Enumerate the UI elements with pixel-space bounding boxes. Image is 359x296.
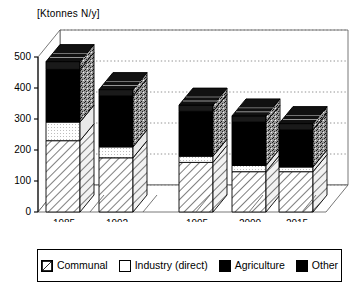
plot-area: 0 100 200 300 400 500 <box>0 22 359 222</box>
y-tick-label: 200 <box>14 144 31 155</box>
y-axis <box>34 57 38 212</box>
legend-item-communal[interactable]: Communal <box>41 260 108 272</box>
stacked-bar-3d-svg: 0 100 200 300 400 500 <box>0 22 359 222</box>
y-axis-unit-title: [Ktonnes N/y] <box>37 8 100 19</box>
black-swatch-icon <box>219 260 231 272</box>
x-tick-labels: 1985 1992 1995 2000 2015 <box>53 218 309 222</box>
bar-1995[interactable] <box>179 88 227 212</box>
y-tick-label: 500 <box>14 51 31 62</box>
x-tick-label: 1995 <box>186 218 209 222</box>
legend-item-industry[interactable]: Industry (direct) <box>119 260 208 272</box>
x-tick-label: 2000 <box>239 218 262 222</box>
legend-label-communal: Communal <box>57 260 108 271</box>
y-tick-label: 0 <box>25 206 31 217</box>
y-tick-label: 400 <box>14 82 31 93</box>
chart-legend: Communal Industry (direct) Agriculture O… <box>37 249 342 282</box>
x-tick-label: 2015 <box>286 218 309 222</box>
legend-item-other[interactable]: Other <box>296 260 338 272</box>
legend-label-agriculture: Agriculture <box>235 260 285 271</box>
y-tick-labels: 0 100 200 300 400 500 <box>14 51 31 217</box>
hatch-swatch-icon <box>41 260 53 272</box>
bar-1985[interactable] <box>46 45 94 212</box>
bar-2015[interactable] <box>279 107 327 212</box>
y-tick-label: 300 <box>14 113 31 124</box>
bar-1992[interactable] <box>99 73 147 212</box>
black-swatch-icon <box>296 260 308 272</box>
legend-label-industry: Industry (direct) <box>135 260 208 271</box>
chart-figure: [Ktonnes N/y] <box>0 0 359 296</box>
bar-2000[interactable] <box>232 99 280 212</box>
x-tick-label: 1992 <box>106 218 129 222</box>
legend-item-agriculture[interactable]: Agriculture <box>219 260 285 272</box>
y-tick-label: 100 <box>14 175 31 186</box>
legend-label-other: Other <box>312 260 338 271</box>
white-swatch-icon <box>119 260 131 272</box>
x-tick-label: 1985 <box>53 218 76 222</box>
